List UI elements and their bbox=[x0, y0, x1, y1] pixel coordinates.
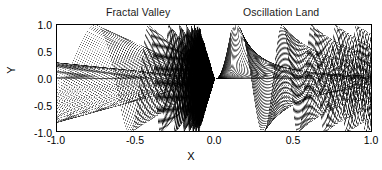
y-axis-label: Y bbox=[5, 57, 17, 83]
xtick-label-2: 0.0 bbox=[184, 135, 244, 146]
x-axis-label: X bbox=[0, 150, 382, 162]
plot-area bbox=[56, 24, 372, 132]
ytick-label-3: -0.5 bbox=[0, 101, 52, 112]
ytick-label-0: 1.0 bbox=[0, 20, 52, 31]
xtick-label-1: -0.5 bbox=[105, 135, 165, 146]
xtick-label-3: 0.5 bbox=[263, 135, 323, 146]
figure: Fractal Valley Oscillation Land 1.0 0.5 … bbox=[0, 0, 382, 170]
xtick-label-4: 1.0 bbox=[341, 135, 382, 146]
chart-title-left: Fractal Valley bbox=[106, 6, 170, 18]
xtick-label-0: -1.0 bbox=[26, 135, 86, 146]
chirp-curves-canvas bbox=[57, 25, 372, 132]
chart-title-right: Oscillation Land bbox=[243, 6, 319, 18]
ytick-label-1: 0.5 bbox=[0, 47, 52, 58]
